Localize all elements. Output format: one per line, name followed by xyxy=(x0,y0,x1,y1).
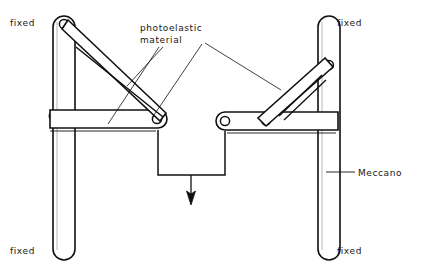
vertical-strip-right xyxy=(318,16,340,260)
truss-diagram xyxy=(0,0,426,278)
label-fixed-top-left: fixed xyxy=(10,18,35,29)
label-fixed-top-right: fixed xyxy=(337,18,362,29)
horizontal-strip-left xyxy=(50,110,167,131)
load-hanger xyxy=(158,130,225,175)
pivot-hole xyxy=(220,116,229,125)
label-meccano: Meccano xyxy=(358,168,402,179)
vertical-strip-left xyxy=(49,16,75,260)
label-photoelastic-line2: material xyxy=(140,34,202,46)
label-photoelastic-material: photoelastic material xyxy=(140,22,202,46)
figure-canvas: fixed fixed fixed fixed Meccano photoela… xyxy=(0,0,426,278)
label-photoelastic-line1: photoelastic xyxy=(140,23,202,33)
label-fixed-bottom-right: fixed xyxy=(337,246,362,257)
load-arrow-icon xyxy=(187,175,196,205)
label-fixed-bottom-left: fixed xyxy=(10,246,35,257)
